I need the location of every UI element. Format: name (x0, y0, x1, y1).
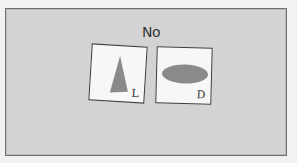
card-key-label: L (131, 87, 139, 100)
card-key-label: D (196, 88, 205, 101)
card-right-ellipse[interactable]: D (155, 46, 212, 104)
prompt-text: No (142, 24, 160, 40)
task-stage: No L D (5, 8, 287, 156)
card-left-triangle[interactable]: L (88, 43, 147, 103)
